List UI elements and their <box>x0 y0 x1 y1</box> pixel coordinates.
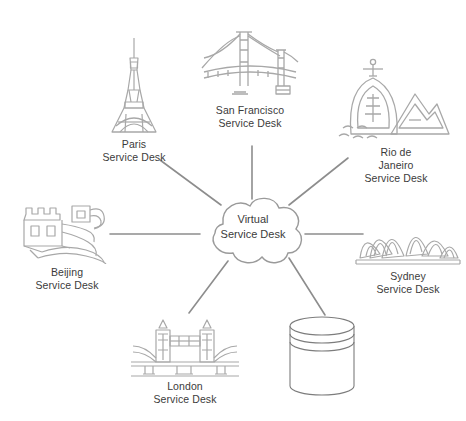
christ-the-redeemer-icon <box>337 52 455 144</box>
great-wall-icon <box>12 194 122 264</box>
node-beijing-label: Beijing Service Desk <box>12 266 122 292</box>
database-cylinder-icon <box>283 314 361 398</box>
node-paris[interactable]: Paris Service Desk <box>78 36 190 164</box>
node-rio-de-janeiro[interactable]: Rio de Janeiro Service Desk <box>337 52 455 185</box>
node-london-label: London Service Desk <box>129 380 241 406</box>
node-paris-label: Paris Service Desk <box>78 138 190 164</box>
node-rio-de-janeiro-label: Rio de Janeiro Service Desk <box>337 146 455 185</box>
node-beijing[interactable]: Beijing Service Desk <box>12 194 122 292</box>
golden-gate-bridge-icon <box>196 24 304 102</box>
sydney-opera-house-icon <box>352 216 464 268</box>
node-skms[interactable]: Service Knowledge Management System <box>283 314 361 398</box>
node-san-francisco-label: San Francisco Service Desk <box>196 104 304 130</box>
virtual-service-desk-label: Virtual Service Desk <box>200 212 306 241</box>
node-london[interactable]: London Service Desk <box>129 316 241 406</box>
tower-bridge-icon <box>129 316 241 378</box>
virtual-service-desk-diagram: Virtual Service Desk <box>0 0 466 421</box>
node-san-francisco[interactable]: San Francisco Service Desk <box>196 24 304 130</box>
node-sydney-label: Sydney Service Desk <box>352 270 464 296</box>
node-sydney[interactable]: Sydney Service Desk <box>352 216 464 296</box>
eiffel-tower-icon <box>78 36 190 136</box>
